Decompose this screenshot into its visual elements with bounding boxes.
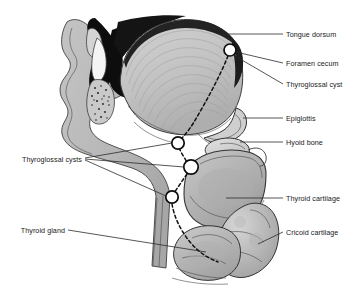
anatomical-figure: Tongue dorsum Foramen cecum Thyroglossal…	[0, 0, 359, 285]
cricoid-lobule-b	[249, 233, 263, 247]
label-hyoid-bone: Hyoid bone	[286, 138, 323, 147]
cricoid-lobule-a	[234, 216, 246, 228]
cyst-marker-foramen-cecum[interactable]	[224, 44, 236, 56]
label-foramen-cecum: Foramen cecum	[286, 59, 339, 68]
label-thyroglossal-cyst: Thyroglossal cyst	[286, 80, 342, 89]
label-tongue-dorsum: Tongue dorsum	[286, 30, 336, 39]
label-epiglottis: Epiglottis	[286, 114, 316, 123]
cyst-marker-suprahyoid[interactable]	[172, 137, 184, 149]
label-cricoid-cartilage: Cricoid cartilage	[286, 228, 338, 237]
label-thyroid-gland: Thyroid gland	[21, 226, 65, 235]
label-thyroglossal-cysts: Thyroglossal cysts	[22, 155, 82, 164]
thyroid-lamina-shading	[198, 168, 254, 208]
cyst-marker-infrahyoid[interactable]	[184, 160, 198, 174]
cyst-marker-thyroid-level[interactable]	[166, 191, 178, 203]
label-thyroid-cartilage: Thyroid cartilage	[286, 194, 340, 203]
